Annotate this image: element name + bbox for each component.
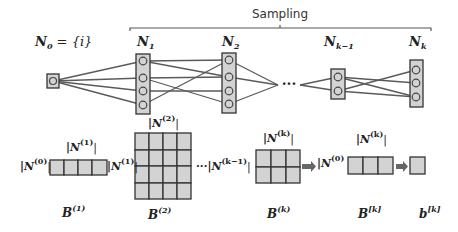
node	[412, 66, 420, 74]
matrix-Bk	[256, 150, 300, 183]
row-label-B-bracket-k: |N(0)	[317, 157, 344, 170]
matrix-B2	[135, 133, 191, 199]
matrix-B-bracket-k	[348, 157, 393, 174]
layer-label-N2: N2	[222, 34, 239, 49]
row-label-B1: |N(0)|	[20, 160, 51, 173]
node	[225, 100, 233, 108]
matrix-name-Bk: B(k)	[267, 207, 290, 221]
arrow-icon	[302, 161, 316, 172]
node	[412, 93, 420, 101]
sampling-bracket	[130, 25, 431, 31]
row-label-Bk: ···|N(k−1)|	[196, 160, 251, 173]
node	[225, 56, 233, 64]
matrix-B1	[50, 160, 107, 175]
layer-N0	[47, 74, 59, 88]
col-label-B1: |N(1)|	[66, 141, 97, 154]
vector-name-b-k: b[k]	[419, 207, 441, 221]
node	[225, 73, 233, 81]
node	[412, 79, 420, 87]
node	[334, 73, 342, 81]
layer-label-Nk: Nk	[409, 34, 426, 49]
layer-label-N0: N0 = {i}	[35, 34, 92, 49]
layer-Nk-1	[331, 69, 345, 99]
node	[139, 87, 147, 95]
node	[334, 87, 342, 95]
sampling-title: Sampling	[252, 7, 308, 21]
vector-b-k	[410, 157, 425, 174]
layer-N2	[222, 53, 236, 113]
matrix-name-B-bracket-k: B[k]	[358, 207, 381, 221]
matrix-name-B2: B(2)	[148, 208, 171, 222]
col-label-Bk: |N(k)|	[263, 132, 294, 145]
node	[139, 101, 147, 109]
layer-ellipsis: ···	[282, 76, 297, 92]
row-label-B2: |N(1)|	[107, 160, 138, 173]
layer-label-N1: N1	[137, 34, 154, 49]
col-label-B2: |N(2)|	[148, 117, 179, 130]
arrow-icon	[396, 161, 408, 172]
col-label-B-bracket-k: |N(k)|	[356, 133, 387, 146]
layer-Nk	[410, 60, 423, 107]
node	[225, 87, 233, 95]
node	[139, 57, 147, 65]
layer-N1	[136, 54, 150, 114]
diagram-canvas: Sampling	[0, 0, 458, 232]
node	[139, 74, 147, 82]
matrix-name-B1: B(1)	[62, 206, 85, 220]
node	[50, 78, 57, 85]
layer-label-Nk-1: Nk−1	[324, 34, 354, 49]
